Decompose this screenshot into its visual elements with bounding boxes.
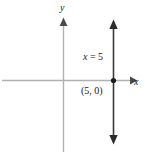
y-axis (60, 18, 68, 153)
y-axis-arrowhead-icon (60, 18, 68, 27)
line-equation-value: 5 (98, 51, 103, 62)
line-equation-label: x = 5 (83, 52, 103, 62)
graph-line-arrowhead-down-icon (109, 135, 117, 145)
graph-line-arrowhead-up-icon (109, 20, 117, 30)
point-marker-5-0 (111, 78, 116, 83)
line-equation-relation: = (87, 51, 98, 62)
coordinate-plane-figure: y x x = 5 (5, 0) (0, 0, 145, 154)
graph-canvas (0, 0, 145, 154)
x-axis-label: x (134, 77, 138, 87)
x-axis (2, 77, 138, 85)
y-axis-label: y (60, 3, 64, 13)
point-coordinate-label: (5, 0) (81, 86, 103, 96)
